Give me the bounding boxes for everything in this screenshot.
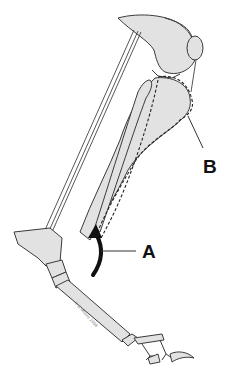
digits [122,334,194,364]
tarsus [14,228,70,288]
femur [118,15,196,74]
leader-b [188,116,203,148]
metatarsus [56,280,130,342]
patella [187,36,203,60]
label-b: B [203,156,217,177]
limb-illustration: © B Moore 1998 A B [0,0,234,375]
label-a: A [142,241,156,262]
